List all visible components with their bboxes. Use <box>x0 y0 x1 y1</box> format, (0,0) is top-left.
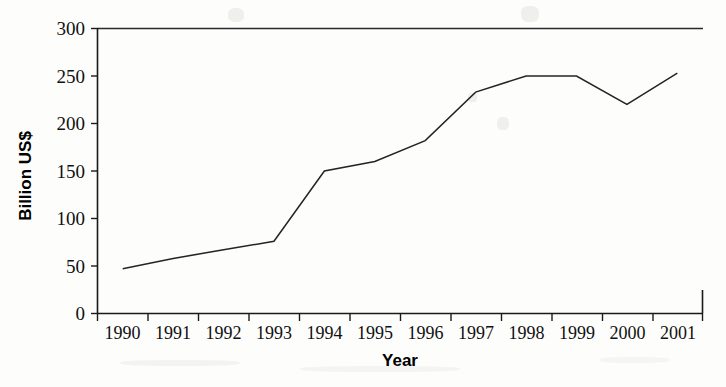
y-tick-marks <box>91 29 98 314</box>
y-tick-label-200: 200 <box>57 113 86 134</box>
x-tick-label-1991: 1991 <box>155 323 191 343</box>
y-tick-label-50: 50 <box>66 256 85 277</box>
y-tick-label-0: 0 <box>76 303 86 324</box>
x-tick-label-1996: 1996 <box>408 323 444 343</box>
x-tick-marks <box>98 314 703 322</box>
y-tick-label-300: 300 <box>57 18 86 39</box>
chart-page: 0 50 100 150 200 250 300 1990 1991 1992 … <box>0 0 726 387</box>
x-tick-label-1998: 1998 <box>509 323 545 343</box>
y-tick-label-250: 250 <box>57 66 86 87</box>
y-axis-title: Billion US$ <box>16 131 35 221</box>
data-series-line <box>123 73 678 269</box>
x-tick-label-1993: 1993 <box>256 323 292 343</box>
x-tick-label-1994: 1994 <box>307 323 343 343</box>
x-axis-title: Year <box>382 351 418 370</box>
x-tick-label-1999: 1999 <box>559 323 595 343</box>
y-tick-label-150: 150 <box>57 161 86 182</box>
x-tick-label-1990: 1990 <box>105 323 141 343</box>
line-chart: 0 50 100 150 200 250 300 1990 1991 1992 … <box>0 0 726 387</box>
y-tick-label-100: 100 <box>57 208 86 229</box>
x-tick-label-1992: 1992 <box>206 323 242 343</box>
x-tick-label-1995: 1995 <box>357 323 393 343</box>
x-tick-label-2001: 2001 <box>660 323 696 343</box>
x-tick-label-2000: 2000 <box>610 323 646 343</box>
x-tick-label-1997: 1997 <box>458 323 494 343</box>
